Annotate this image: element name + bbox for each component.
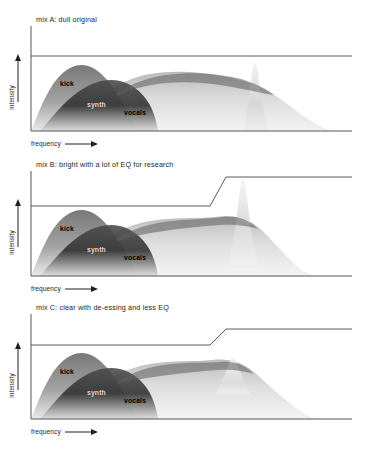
x-axis-arrow-a: [65, 141, 98, 147]
panel-b-plot: [0, 155, 368, 298]
panel-c-y-label: intensity: [8, 363, 15, 409]
reference-line-b: [31, 177, 352, 206]
mix-comparison-figure: mix A: dull original intensity frequency…: [0, 0, 368, 451]
panel-mix-c: mix C: clear with de-essing and less EQ …: [0, 298, 368, 441]
panel-c-label-synth: synth: [87, 389, 106, 396]
panel-a-plot: [0, 10, 368, 153]
panel-a-label-kick: kick: [60, 80, 74, 87]
panel-b-title: mix B: bright with a lot of EQ for resea…: [36, 160, 173, 169]
y-axis-arrow-b: [15, 199, 21, 247]
x-axis-arrow-c: [65, 429, 98, 435]
panel-a-y-label: intensity: [8, 75, 15, 121]
panel-a-label-vocals: vocals: [124, 109, 146, 116]
panel-b-label-vocals: vocals: [124, 254, 146, 261]
panel-c-label-kick: kick: [60, 368, 74, 375]
panel-mix-a: mix A: dull original intensity frequency…: [0, 10, 368, 153]
panel-a-title: mix A: dull original: [36, 15, 97, 24]
panel-b-label-kick: kick: [60, 225, 74, 232]
panel-c-plot: [0, 298, 368, 441]
panel-a-x-label: frequency: [31, 140, 61, 147]
x-axis-arrow-b: [65, 286, 98, 292]
panel-b-y-label: intensity: [8, 220, 15, 266]
panel-b-x-label: frequency: [31, 285, 61, 292]
panel-c-x-label: frequency: [31, 428, 61, 435]
y-axis-arrow-a: [15, 54, 21, 102]
panel-mix-b: mix B: bright with a lot of EQ for resea…: [0, 155, 368, 298]
reference-line-c: [31, 329, 352, 345]
panel-a-label-synth: synth: [87, 101, 106, 108]
y-axis-arrow-c: [15, 342, 21, 390]
panel-c-label-vocals: vocals: [124, 397, 146, 404]
panel-c-title: mix C: clear with de-essing and less EQ: [36, 303, 169, 312]
panel-b-label-synth: synth: [87, 246, 106, 253]
